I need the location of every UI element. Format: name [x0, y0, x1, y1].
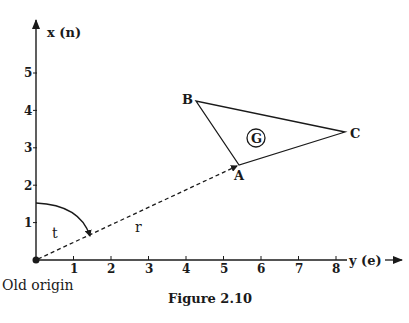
vertical-tick-3: 3: [24, 141, 32, 155]
vertex-a-label: A: [233, 168, 245, 183]
horizontal-tick-3: 3: [145, 262, 153, 276]
origin-point: [33, 257, 40, 264]
radius-vector: [38, 166, 237, 259]
figure-caption: Figure 2.10: [168, 291, 252, 306]
angle-arc: [36, 203, 90, 236]
horizontal-tick-1: 1: [70, 262, 78, 276]
radius-label: r: [135, 219, 142, 235]
triangle-abc: [196, 101, 345, 165]
horizontal-axis-label: y (e): [348, 253, 382, 268]
horizontal-tick-6: 6: [257, 262, 265, 276]
horizontal-tick-4: 4: [182, 262, 190, 276]
coordinate-diagram: 1 2 3 4 5 x (n) 1 2 3 4 5 6 7 8 y (e) Ol…: [0, 0, 409, 323]
vertical-tick-5: 5: [24, 66, 32, 80]
horizontal-tick-7: 7: [295, 262, 303, 276]
vertical-tick-4: 4: [24, 104, 32, 118]
horizontal-tick-5: 5: [220, 262, 228, 276]
angle-label: t: [52, 225, 58, 241]
vertical-tick-2: 2: [24, 179, 32, 193]
horizontal-tick-8: 8: [332, 262, 340, 276]
vertex-c-label: C: [350, 126, 360, 141]
vertical-tick-1: 1: [24, 216, 32, 230]
vertical-axis-label: x (n): [47, 25, 81, 40]
vertex-b-label: B: [182, 92, 193, 107]
horizontal-axis: 1 2 3 4 5 6 7 8 y (e): [36, 253, 402, 276]
centroid-label: G: [251, 131, 262, 146]
origin-label: Old origin: [2, 277, 73, 293]
horizontal-tick-2: 2: [107, 262, 115, 276]
